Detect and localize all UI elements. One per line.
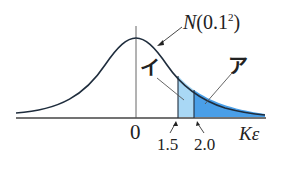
tick-2-0-arrow-icon xyxy=(196,121,200,126)
distribution-label-args: (0.1 xyxy=(196,11,228,33)
tick-label-2-0: 2.0 xyxy=(194,136,215,153)
tick-label-1-5: 1.5 xyxy=(157,136,178,153)
distribution-label-close: ) xyxy=(234,11,241,33)
distribution-label: N(0.12) xyxy=(183,12,240,32)
region-a-label: ア xyxy=(228,56,248,76)
tick-2-0-leader xyxy=(198,124,204,133)
tick-1-5-arrow-icon xyxy=(173,121,178,126)
x-axis-label: Kε xyxy=(239,124,259,143)
region-i-label: イ xyxy=(140,58,160,78)
region-a-fill xyxy=(194,90,265,117)
title-leader-arrow-icon xyxy=(157,40,164,46)
title-leader-line xyxy=(160,27,182,44)
origin-label: 0 xyxy=(130,122,141,143)
normal-distribution-diagram xyxy=(0,0,290,171)
distribution-label-n: N xyxy=(183,11,196,33)
